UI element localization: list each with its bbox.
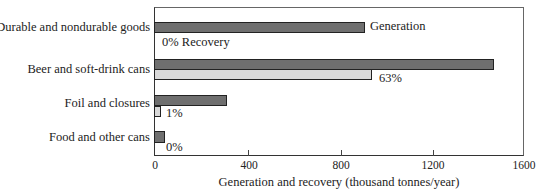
- x-tick-1200: [433, 150, 434, 156]
- bar-generation-durable-goods: [154, 22, 365, 33]
- recovery-percent-durable-goods: 0% Recovery: [162, 35, 230, 50]
- x-tick-label-1600: 1600: [513, 159, 536, 171]
- x-axis-title: Generation and recovery (thousand tonnes…: [219, 175, 460, 190]
- bar-generation-foil-closures: [154, 95, 227, 106]
- bar-recovery-foil-closures: [154, 106, 161, 117]
- x-tick-label-0: 0: [152, 159, 158, 171]
- x-tick-800: [341, 150, 342, 156]
- x-tick-label-1200: 1200: [422, 159, 445, 171]
- category-label-beer-cans: Beer and soft-drink cans: [27, 62, 150, 77]
- bar-generation-food-cans: [154, 131, 165, 143]
- category-label-food-cans: Food and other cans: [49, 130, 150, 145]
- recovery-percent-beer-cans: 63%: [379, 71, 402, 86]
- recovery-percent-foil-closures: 1%: [166, 106, 183, 121]
- x-tick-label-400: 400: [240, 159, 257, 171]
- legend-generation-label: Generation: [370, 19, 426, 34]
- recovery-percent-food-cans: 0%: [166, 140, 183, 155]
- x-tick-label-800: 800: [332, 159, 349, 171]
- bar-recovery-beer-cans: [154, 69, 372, 80]
- category-label-durable-goods: Durable and nondurable goods: [0, 20, 150, 35]
- category-label-foil-closures: Foil and closures: [65, 96, 150, 111]
- x-tick-400: [248, 150, 249, 156]
